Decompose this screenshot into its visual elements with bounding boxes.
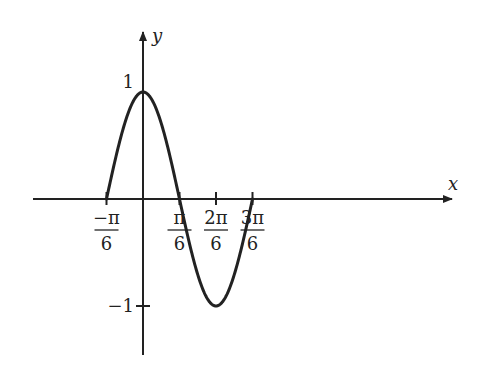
x-axis-label: x [448, 173, 458, 194]
svg-text:6: 6 [174, 233, 185, 254]
svg-text:3π: 3π [241, 207, 264, 228]
x-tick-label: 3π6 [241, 207, 265, 254]
svg-text:6: 6 [101, 233, 112, 254]
svg-text:2π: 2π [204, 207, 227, 228]
svg-text:6: 6 [247, 233, 258, 254]
x-tick-label: 2π6 [204, 207, 228, 254]
x-tick-labels: −π6π62π63π6 [93, 207, 264, 254]
svg-text:−π: −π [93, 207, 120, 228]
x-tick-label: π6 [168, 207, 192, 254]
y-axis-label: y [151, 25, 163, 46]
svg-text:6: 6 [210, 233, 221, 254]
y-tick-label: 1 [123, 71, 134, 92]
y-tick-label: −1 [107, 295, 134, 316]
svg-text:π: π [174, 207, 186, 228]
x-tick-label: −π6 [93, 207, 120, 254]
cosine-graph: x y −π6π62π63π6 1−1 [0, 0, 486, 380]
